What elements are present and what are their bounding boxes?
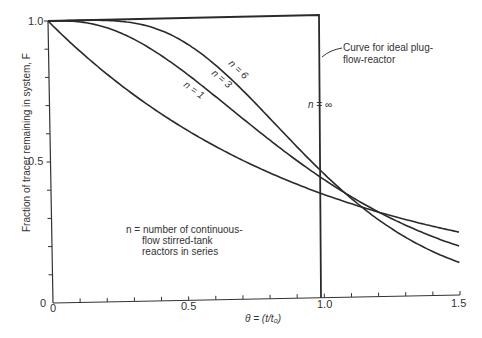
note-line1: n = number of continuous- bbox=[126, 224, 242, 235]
note-line3: reactors in series bbox=[142, 246, 218, 257]
y-axis-title: Fraction of tracer remaining in system, … bbox=[21, 53, 32, 232]
y-tick-label-0: 0 bbox=[40, 297, 46, 309]
y-tick-label-1.0: 1.0 bbox=[28, 15, 43, 27]
x-axis-title: θ = (t/t₀) bbox=[245, 313, 281, 324]
curve-label-ninf: n = ∞ bbox=[308, 99, 332, 110]
plug-flow-label-line2: flow-reactor bbox=[343, 54, 396, 65]
x-axis bbox=[53, 295, 460, 303]
x-tick-label-0.5: 0.5 bbox=[181, 300, 196, 312]
plug-flow-leader-line bbox=[322, 48, 342, 57]
axes bbox=[48, 21, 460, 303]
curve-n-6 bbox=[48, 20, 459, 262]
curves bbox=[48, 15, 459, 298]
curve-label-n3: n = 3 bbox=[210, 67, 235, 90]
x-tick-label-0: 0 bbox=[50, 302, 56, 314]
curve-label-n1: n = 1 bbox=[182, 79, 207, 101]
plug-flow-label-line1: Curve for ideal plug- bbox=[343, 42, 433, 53]
curve-n-3 bbox=[48, 21, 459, 246]
x-tick-label-1.5: 1.5 bbox=[451, 297, 466, 309]
x-tick-label-1.0: 1.0 bbox=[317, 298, 332, 310]
chart-figure: 0 0.5 1.0 1.5 0 0.5 1.0 θ = (t/t₀) Fract… bbox=[0, 0, 482, 338]
note-line2: flow stirred-tank bbox=[142, 235, 214, 246]
